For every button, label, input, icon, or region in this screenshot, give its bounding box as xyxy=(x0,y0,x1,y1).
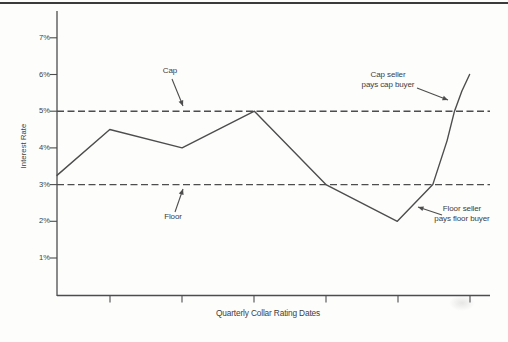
floor-seller-annotation: Floor seller pays floor buyer xyxy=(434,204,489,223)
x-axis-title: Quarterly Collar Rating Dates xyxy=(216,308,320,318)
y-tick-label-7pct: 7% xyxy=(28,33,50,43)
floor-seller-line1: Floor seller xyxy=(434,204,489,214)
y-tick-label-3pct: 3% xyxy=(28,180,50,190)
y-tick-label-4pct: 4% xyxy=(28,143,50,153)
cap-annotation-text: Cap xyxy=(163,66,177,76)
interest-rate-path-line xyxy=(57,75,470,222)
cap-seller-line1: Cap seller xyxy=(362,70,415,80)
floor-annotation: Floor xyxy=(164,212,182,222)
y-tick-label-5pct: 5% xyxy=(28,106,50,116)
floor-seller-line2: pays floor buyer xyxy=(434,214,489,224)
floor-annotation-text: Floor xyxy=(164,212,182,222)
floor-seller-arrow-head xyxy=(418,206,424,211)
cap-seller-line2: pays cap buyer xyxy=(362,80,415,90)
cap-annotation: Cap xyxy=(163,66,177,76)
y-tick-label-1pct: 1% xyxy=(28,253,50,263)
y-tick-label-2pct: 2% xyxy=(28,216,50,226)
y-axis-title: Interest Rate xyxy=(19,124,28,169)
y-tick-label-6pct: 6% xyxy=(28,70,50,80)
cap-seller-arrow-head xyxy=(442,96,448,101)
cap-seller-annotation: Cap seller pays cap buyer xyxy=(362,70,415,89)
scan-smudge-artifact xyxy=(449,295,475,311)
floor-arrow-head xyxy=(179,189,184,195)
collar-chart-figure: 1%2%3%4%5%6%7% Interest Rate Quarterly C… xyxy=(0,0,508,342)
chart-canvas xyxy=(0,0,508,342)
